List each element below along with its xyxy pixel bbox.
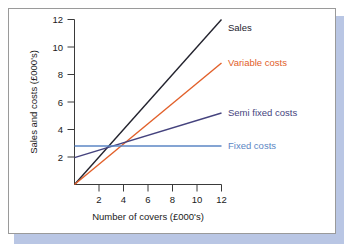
x-axis-ticks xyxy=(99,185,222,192)
x-tick-label-6: 6 xyxy=(145,194,150,205)
x-axis-tick-labels: 2 4 6 8 10 12 xyxy=(96,194,226,205)
x-axis-title: Number of covers (£000's) xyxy=(92,211,204,222)
series-label-fixed-costs: Fixed costs xyxy=(228,140,276,151)
y-tick-label-10: 10 xyxy=(52,42,63,53)
x-tick-label-12: 12 xyxy=(216,194,227,205)
series-line-variable-costs xyxy=(75,63,222,185)
series-label-semi-fixed-costs: Semi fixed costs xyxy=(228,107,297,118)
y-axis-title: Sales and costs (£000's) xyxy=(28,50,39,154)
series-label-variable-costs: Variable costs xyxy=(228,57,287,68)
y-tick-label-2: 2 xyxy=(58,152,63,163)
y-tick-label-12: 12 xyxy=(52,14,63,25)
y-tick-label-4: 4 xyxy=(58,124,63,135)
line-chart: 12 10 8 6 4 2 2 4 6 8 xyxy=(9,9,335,233)
figure-root: 12 10 8 6 4 2 2 4 6 8 xyxy=(0,0,352,251)
figure-frame: 12 10 8 6 4 2 2 4 6 8 xyxy=(8,8,336,234)
x-tick-label-10: 10 xyxy=(192,194,203,205)
x-tick-label-4: 4 xyxy=(121,194,126,205)
y-tick-label-6: 6 xyxy=(58,97,63,108)
x-tick-label-2: 2 xyxy=(96,194,101,205)
y-axis-ticks xyxy=(68,20,75,158)
series-label-sales: Sales xyxy=(228,22,252,33)
series-line-sales xyxy=(75,20,222,185)
series-line-semi-fixed-costs xyxy=(75,113,222,158)
y-axis-tick-labels: 12 10 8 6 4 2 xyxy=(52,14,63,163)
y-tick-label-8: 8 xyxy=(58,69,63,80)
x-tick-label-8: 8 xyxy=(170,194,175,205)
